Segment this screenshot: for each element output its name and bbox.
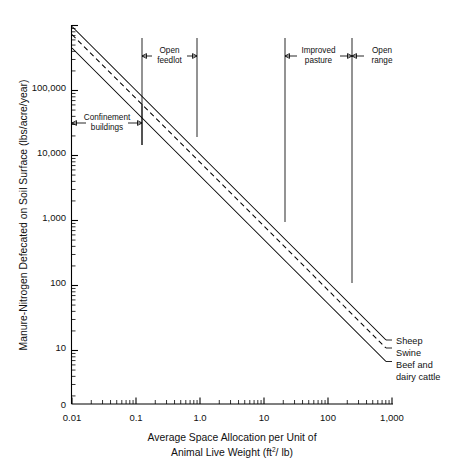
annotation-label-confinement-line1: Confinement [84,113,131,122]
annotation-label-confinement-line2: buildings [91,123,123,132]
legend-label-swine: Swine [396,348,421,358]
annotation-label-pasture-line1: Improved [301,46,336,55]
legend-label-sheep: Sheep [396,336,423,346]
x-tick-label-0.1: 0.1 [129,412,142,423]
legend-label-beef-line1: Beef and [396,360,433,370]
x-tick-label-0.01: 0.01 [63,412,82,423]
annotation-label-pasture-line2: pasture [305,56,333,65]
x-axis-title-line1: Average Space Allocation per Unit of [147,432,316,443]
annotation-open-range: Open range [352,46,393,65]
x-axis-title-line2-b: / lb) [276,447,293,458]
x-axis-title: Average Space Allocation per Unit of Ani… [147,432,316,458]
series-line-swine [72,35,386,349]
annotation-label-range-line2: range [372,56,393,65]
y-axis-title: Manure-Nitrogen Defecated on Soil Surfac… [18,80,29,351]
y-tick-label-origin: 0 [61,399,66,410]
annotation-confinement-buildings: Confinement buildings [72,104,142,145]
annotation-label-feedlot-line2: feedlot [157,56,182,65]
annotation-open-feedlot: Open feedlot [142,38,197,145]
y-tick-label-10000: 10,000 [37,147,66,158]
annotation-arrow-right-feedlot [187,54,197,59]
y-tick-labels: 100,000 10,000 1,000 100 10 0 [32,82,66,410]
annotation-improved-pasture: Improved pasture [285,38,352,283]
axes-group [72,25,394,404]
chart-svg: 100,000 10,000 1,000 100 10 0 0.01 0.1 1… [0,0,465,472]
annotation-label-range-line1: Open [372,46,392,55]
x-tick-label-10: 10 [259,412,270,423]
chart-figure: 100,000 10,000 1,000 100 10 0 0.01 0.1 1… [0,0,465,472]
x-axis-title-line2: Animal Live Weight (ft2/ lb) [171,446,293,458]
annotation-arrow-right-pasture [340,54,352,59]
data-series-group [72,27,386,362]
x-axis-ticks [72,398,392,405]
y-tick-label-10: 10 [55,342,66,353]
series-line-sheep [72,27,386,341]
legend-group: Sheep Swine Beef and dairy cattle [386,336,440,383]
y-tick-label-100: 100 [50,277,66,288]
x-tick-label-1000: 1,000 [380,412,404,423]
y-axis-ticks [72,26,79,396]
x-axis-title-line2-a: Animal Live Weight (ft [171,447,272,458]
x-tick-label-100: 100 [320,412,336,423]
y-tick-label-100000: 100,000 [32,82,66,93]
series-line-beef-dairy-cattle [72,48,386,362]
legend-label-beef-line2: dairy cattle [396,372,440,382]
annotation-arrow-left-range [352,54,364,59]
annotation-arrow-left-feedlot [142,54,152,59]
annotation-label-feedlot-line1: Open [159,46,179,55]
x-tick-label-1.0: 1.0 [193,412,206,423]
annotation-arrow-left-pasture [285,54,297,59]
x-tick-labels: 0.01 0.1 1.0 10 100 1,000 [63,412,404,423]
y-tick-label-1000: 1,000 [42,212,66,223]
